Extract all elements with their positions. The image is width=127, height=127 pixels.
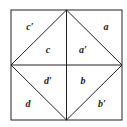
label-a-prime: a′ (79, 44, 87, 55)
label-d-prime: d′ (44, 75, 52, 86)
label-b: b (81, 75, 86, 86)
label-d: d (26, 98, 32, 109)
label-a: a (104, 21, 109, 32)
label-b-prime: b′ (98, 98, 106, 109)
label-c: c (46, 44, 51, 55)
label-c-prime: c′ (26, 21, 33, 32)
square-dissection-diagram: c′ a c a′ d′ b d b′ (0, 0, 127, 127)
